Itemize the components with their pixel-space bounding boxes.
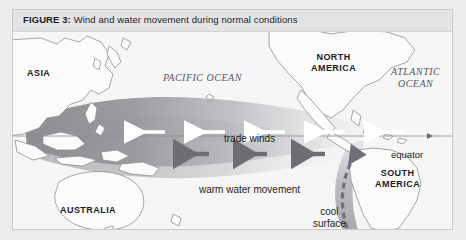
map-graphics [13,32,452,230]
figure-frame: FIGURE 3: Wind and water movement during… [12,9,453,230]
figure-root: FIGURE 3: Wind and water movement during… [0,0,466,240]
world-map: ASIA AUSTRALIA NORTHAMERICA SOUTHAMERICA… [13,32,452,230]
figure-caption-band: FIGURE 3: Wind and water movement during… [13,10,452,32]
figure-number: FIGURE 3: [23,14,71,25]
figure-caption-text: Wind and water movement during normal co… [74,14,298,25]
figure-caption: FIGURE 3: Wind and water movement during… [23,14,298,25]
